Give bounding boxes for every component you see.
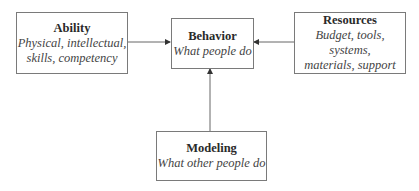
ability-title: Ability — [54, 21, 91, 36]
behavior-box: Behavior What people do — [171, 18, 254, 69]
resources-title: Resources — [323, 13, 377, 28]
resources-box: Resources Budget, tools, systems, materi… — [294, 12, 406, 74]
resources-desc-line-2: materials, support — [304, 58, 396, 73]
ability-desc-line-2: skills, competency — [27, 51, 118, 66]
modeling-box: Modeling What other people do — [156, 131, 267, 181]
behavior-title: Behavior — [188, 29, 237, 44]
ability-desc-line-1: Physical, intellectual, — [18, 36, 127, 51]
resources-desc-line-1: Budget, tools, systems, — [295, 28, 405, 58]
behavior-desc: What people do — [173, 44, 251, 59]
modeling-desc: What other people do — [158, 156, 266, 171]
ability-box: Ability Physical, intellectual, skills, … — [16, 12, 128, 74]
modeling-title: Modeling — [186, 141, 237, 156]
